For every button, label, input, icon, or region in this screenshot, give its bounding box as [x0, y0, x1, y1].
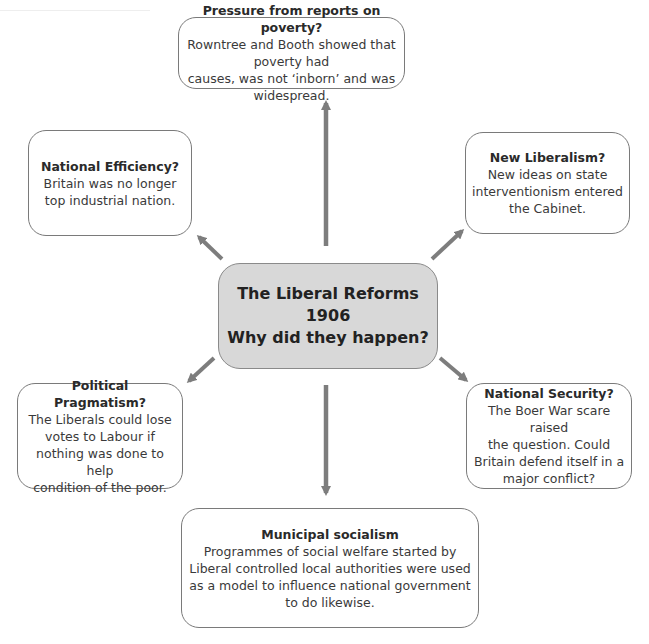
node-line: votes to Labour if: [45, 428, 155, 445]
node-national-security: National Security? The Boer War scare ra…: [466, 383, 632, 489]
node-title: National Security?: [484, 385, 613, 402]
node-line: interventionism entered: [472, 183, 623, 200]
node-line: New ideas on state: [488, 166, 608, 183]
central-title-line: The Liberal Reforms: [237, 283, 419, 305]
node-line: the question. Could: [488, 436, 610, 453]
node-new-liberalism: New Liberalism? New ideas on state inter…: [465, 132, 630, 234]
node-line: causes, was not ‘inborn’ and was widespr…: [185, 70, 398, 104]
central-question-line: Why did they happen?: [227, 327, 429, 349]
node-line: Programmes of social welfare started by: [204, 543, 457, 560]
node-title: Municipal socialism: [261, 526, 398, 543]
node-line: Rowntree and Booth showed that poverty h…: [185, 36, 398, 70]
node-line: Liberal controlled local authorities wer…: [189, 560, 471, 577]
node-line: Britain defend itself in a: [474, 453, 624, 470]
node-line: the Cabinet.: [509, 200, 586, 217]
node-title: Pressure from reports on poverty?: [185, 2, 398, 36]
node-title: National Efficiency?: [41, 158, 179, 175]
node-poverty-reports: Pressure from reports on poverty? Rowntr…: [178, 17, 405, 89]
arrow-up-right: [432, 231, 462, 259]
arrow-up-left: [199, 237, 222, 259]
arrow-down-right: [440, 358, 466, 380]
node-line: nothing was done to help: [24, 445, 176, 479]
central-topic: The Liberal Reforms 1906 Why did they ha…: [218, 263, 438, 369]
node-line: top industrial nation.: [45, 192, 175, 209]
node-line: The Liberals could lose: [28, 411, 171, 428]
node-political-pragmatism: Political Pragmatism? The Liberals could…: [17, 383, 183, 489]
node-title: Political Pragmatism?: [24, 377, 176, 411]
central-year-line: 1906: [306, 305, 351, 327]
node-line: major conflict?: [503, 470, 595, 487]
arrow-down-left: [189, 358, 214, 381]
node-line: as a model to influence national governm…: [189, 577, 470, 594]
node-line: to do likewise.: [285, 594, 374, 611]
node-line: Britain was no longer: [44, 175, 177, 192]
node-line: The Boer War scare raised: [473, 402, 625, 436]
node-national-efficiency: National Efficiency? Britain was no long…: [28, 130, 192, 236]
node-title: New Liberalism?: [490, 149, 605, 166]
node-municipal-socialism: Municipal socialism Programmes of social…: [181, 508, 479, 628]
node-line: condition of the poor.: [33, 479, 166, 496]
